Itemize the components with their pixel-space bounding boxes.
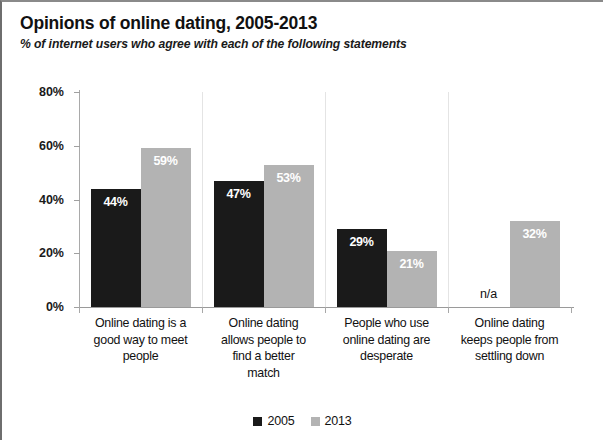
bar-value-label: 53%	[264, 171, 314, 185]
category-label-2: Online dating allows people to find a be…	[196, 315, 331, 381]
category-label-4: Online dating keeps people from settling…	[442, 315, 577, 365]
x-axis-tick-mark	[202, 307, 203, 313]
category-label-1: Online dating is a good way to meet peop…	[73, 315, 208, 365]
y-axis-tick-labels: 0%20%40%60%80%	[2, 2, 74, 440]
legend-item-2013[interactable]: 2013	[311, 414, 352, 428]
bar-2013-1[interactable]: 59%	[141, 148, 191, 307]
plot-area: 44%47%29%n/a59%53%21%32%	[79, 92, 571, 307]
legend-swatch-icon	[311, 417, 320, 426]
bar-value-label: 29%	[337, 235, 387, 249]
bar-2005-3[interactable]: 29%	[337, 229, 387, 307]
y-axis-tick-label: 60%	[39, 139, 64, 153]
bar-2013-2[interactable]: 53%	[264, 165, 314, 307]
chart-frame: Opinions of online dating, 2005-2013 % o…	[0, 0, 603, 440]
legend-item-2005[interactable]: 2005	[253, 414, 294, 428]
y-axis-tick-label: 0%	[46, 300, 64, 314]
bar-value-label-na: n/a	[464, 287, 514, 301]
x-axis-tick-mark	[79, 307, 80, 313]
x-axis-tick-mark	[571, 307, 572, 313]
bar-value-label: 59%	[141, 154, 191, 168]
bar-value-label: 47%	[214, 187, 264, 201]
x-axis-tick-mark	[448, 307, 449, 313]
category-label-3: People who use online dating are despera…	[319, 315, 454, 365]
bar-2013-4[interactable]: 32%	[510, 221, 560, 307]
y-axis-tick-label: 80%	[39, 85, 64, 99]
x-axis-line	[79, 307, 574, 308]
chart-subtitle: % of internet users who agree with each …	[20, 37, 407, 51]
bar-2005-2[interactable]: 47%	[214, 181, 264, 307]
bar-value-label: 32%	[510, 227, 560, 241]
bar-value-label: 44%	[91, 195, 141, 209]
bar-2013-3[interactable]: 21%	[387, 251, 437, 307]
bar-2005-1[interactable]: 44%	[91, 189, 141, 307]
legend-label: 2013	[325, 414, 352, 428]
x-axis-tick-mark	[325, 307, 326, 313]
chart-legend: 20052013	[2, 414, 603, 428]
y-axis-tick-label: 20%	[39, 246, 64, 260]
y-axis-tick-label: 40%	[39, 193, 64, 207]
legend-swatch-icon	[253, 417, 262, 426]
bar-value-label: 21%	[387, 257, 437, 271]
legend-label: 2005	[267, 414, 294, 428]
